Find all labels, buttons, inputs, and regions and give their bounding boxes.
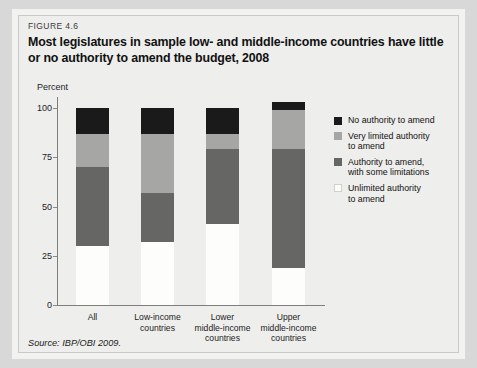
x-category-label-line: countries bbox=[243, 333, 335, 344]
figure-card: FIGURE 4.6 Most legislatures in sample l… bbox=[12, 9, 465, 359]
legend-swatch-icon bbox=[334, 132, 342, 140]
legend-item[interactable]: Very limited authorityto amend bbox=[334, 131, 462, 152]
x-category-label: Uppermiddle-incomecountries bbox=[243, 312, 335, 344]
y-tick-mark bbox=[53, 207, 57, 208]
legend-swatch-icon bbox=[334, 184, 342, 192]
legend-item-label-line: to amend bbox=[348, 194, 462, 205]
bar-stack bbox=[272, 97, 305, 306]
bar-stack bbox=[141, 97, 174, 306]
y-tick-label: 0 bbox=[26, 300, 52, 310]
y-tick-mark bbox=[53, 256, 57, 257]
bar-segment bbox=[272, 110, 305, 149]
y-tick-label: 100 bbox=[26, 103, 52, 113]
legend-swatch-icon bbox=[334, 117, 342, 125]
bar-segment bbox=[272, 268, 305, 305]
legend-item-label-line: to amend bbox=[348, 141, 462, 152]
bar-segment bbox=[141, 242, 174, 305]
legend-swatch-icon bbox=[334, 158, 342, 166]
y-tick-label: 75 bbox=[26, 152, 52, 162]
bar-segment bbox=[272, 102, 305, 110]
bar-segment bbox=[206, 224, 239, 305]
legend-item-label-line: Unlimited authority bbox=[348, 183, 462, 194]
x-category-label-line: Upper bbox=[243, 312, 335, 323]
y-axis-line bbox=[57, 97, 58, 306]
legend-item[interactable]: Unlimited authorityto amend bbox=[334, 183, 462, 204]
bar-segment bbox=[141, 193, 174, 242]
bar-segment bbox=[206, 134, 239, 150]
y-tick-mark bbox=[53, 157, 57, 158]
legend-item-label-line: Very limited authority bbox=[348, 131, 462, 142]
bar-segment bbox=[141, 108, 174, 134]
bar-segment bbox=[76, 108, 109, 134]
legend-item[interactable]: No authority to amend bbox=[334, 115, 462, 126]
legend-item-label-line: Authority to amend, bbox=[348, 157, 462, 168]
legend-item[interactable]: Authority to amend,with some limitations bbox=[334, 157, 462, 178]
x-category-label-line: middle-income bbox=[243, 323, 335, 334]
legend-item-label-line: No authority to amend bbox=[348, 115, 462, 126]
y-tick-label: 25 bbox=[26, 251, 52, 261]
bar-segment bbox=[76, 167, 109, 246]
bar-segment bbox=[206, 149, 239, 224]
bar-stack bbox=[76, 97, 109, 306]
y-tick-label: 50 bbox=[26, 202, 52, 212]
bar-segment bbox=[76, 246, 109, 305]
chart-legend: No authority to amendVery limited author… bbox=[334, 115, 462, 209]
bar-segment bbox=[272, 149, 305, 267]
y-tick-mark bbox=[53, 108, 57, 109]
source-note: Source: IBP/OBI 2009. bbox=[28, 338, 121, 348]
y-tick-mark bbox=[53, 305, 57, 306]
bar-stack bbox=[206, 97, 239, 306]
bar-segment bbox=[76, 134, 109, 167]
bar-segment bbox=[141, 134, 174, 193]
bar-segment bbox=[206, 108, 239, 134]
legend-item-label-line: with some limitations bbox=[348, 167, 462, 178]
